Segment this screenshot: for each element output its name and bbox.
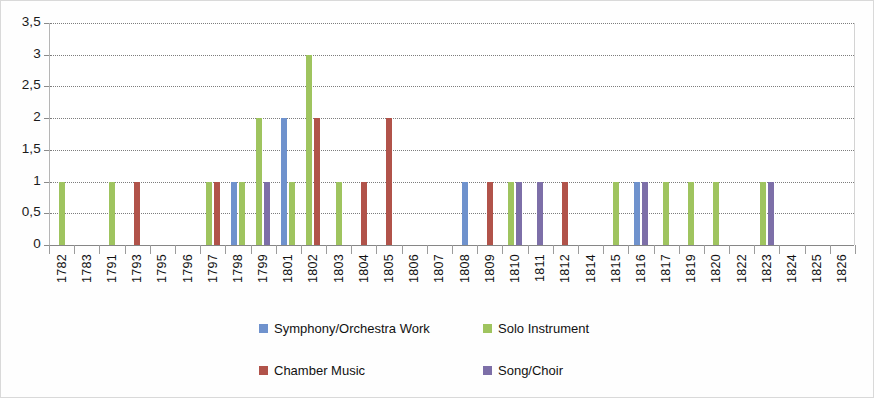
x-axis-tick-mark	[779, 245, 780, 254]
x-axis-tick-mark	[477, 245, 478, 254]
bar	[264, 182, 270, 245]
x-axis-tick-mark	[74, 245, 75, 254]
bar-group	[326, 23, 351, 245]
x-axis-tick-mark	[225, 245, 226, 254]
x-axis-tick-mark	[276, 245, 277, 254]
x-axis-tick-mark	[729, 245, 730, 254]
legend-label: Chamber Music	[274, 363, 365, 379]
y-axis-tick-label: 3,5	[1, 14, 41, 29]
bar	[760, 182, 766, 245]
x-axis-tick-mark	[754, 245, 755, 254]
legend-item[interactable]: Solo Instrument	[483, 321, 589, 337]
y-axis-tick-mark	[44, 86, 49, 87]
x-axis-tick-label: 1796	[181, 254, 195, 283]
x-axis-tick-mark	[427, 245, 428, 254]
x-axis-tick-mark	[603, 245, 604, 254]
x-axis-tick-label: 1803	[332, 254, 346, 283]
bar	[663, 182, 669, 245]
x-axis-tick-label: 1802	[306, 254, 320, 283]
chart-legend: Symphony/Orchestra WorkSolo InstrumentCh…	[1, 311, 874, 381]
y-axis-tick-label: 3	[1, 46, 41, 61]
x-axis-tick-label: 1823	[760, 254, 774, 283]
legend-swatch-icon	[259, 324, 268, 333]
bar-group	[704, 23, 729, 245]
legend-label: Symphony/Orchestra Work	[274, 321, 430, 337]
x-axis-tick-label: 1810	[508, 254, 522, 283]
x-axis-tick-label: 1799	[256, 254, 270, 283]
x-axis-tick-mark	[125, 245, 126, 254]
x-axis-tick-label: 1804	[357, 254, 371, 283]
bar-group	[301, 23, 326, 245]
bar	[59, 182, 65, 245]
bar-group	[628, 23, 653, 245]
x-axis-tick-label: 1811	[533, 254, 547, 282]
bar	[361, 182, 367, 245]
x-axis-tick-mark	[805, 245, 806, 254]
bar-group	[502, 23, 527, 245]
x-axis-tick-label: 1795	[155, 254, 169, 283]
bar-group	[830, 23, 855, 245]
y-axis-tick-label: 1	[1, 173, 41, 188]
x-axis-tick-mark	[452, 245, 453, 254]
bars-layer	[49, 23, 855, 245]
bar-group	[251, 23, 276, 245]
x-axis-tick-label: 1791	[105, 254, 119, 283]
y-axis-tick-label: 1,5	[1, 141, 41, 156]
x-axis-tick-label: 1808	[458, 254, 472, 283]
bar-group	[553, 23, 578, 245]
legend-item[interactable]: Song/Choir	[483, 363, 563, 379]
x-axis-tick-label: 1798	[231, 254, 245, 283]
bar-group	[528, 23, 553, 245]
bar	[537, 182, 543, 245]
y-axis-tick-label: 2,5	[1, 77, 41, 92]
x-axis-tick-mark	[628, 245, 629, 254]
y-axis-tick-label: 2	[1, 109, 41, 124]
bar	[306, 55, 312, 245]
y-axis-tick-mark	[44, 118, 49, 119]
bar-group	[402, 23, 427, 245]
y-axis-tick-mark	[44, 55, 49, 56]
bar	[214, 182, 220, 245]
x-axis-tick-mark	[200, 245, 201, 254]
x-axis-tick-label: 1793	[130, 254, 144, 283]
x-axis-tick-mark	[402, 245, 403, 254]
x-axis-tick-label: 1809	[483, 254, 497, 283]
x-axis-tick-label: 1817	[659, 254, 673, 283]
bar-group	[99, 23, 124, 245]
bar-group	[427, 23, 452, 245]
x-axis-tick-label: 1783	[80, 254, 94, 283]
legend-item[interactable]: Chamber Music	[259, 363, 365, 379]
x-axis-tick-mark	[251, 245, 252, 254]
x-axis-tick-label: 1814	[584, 254, 598, 283]
bar	[134, 182, 140, 245]
legend-swatch-icon	[483, 366, 492, 375]
bar	[386, 118, 392, 245]
bar-group	[150, 23, 175, 245]
bar	[688, 182, 694, 245]
bar-group	[200, 23, 225, 245]
x-axis-tick-label: 1807	[432, 254, 446, 283]
bar	[562, 182, 568, 245]
y-axis-tick-label: 0	[1, 236, 41, 251]
y-axis-tick-label: 0,5	[1, 204, 41, 219]
bar	[634, 182, 640, 245]
x-axis-tick-mark	[578, 245, 579, 254]
bar-group	[74, 23, 99, 245]
bar-group	[376, 23, 401, 245]
x-axis-tick-label: 1805	[382, 254, 396, 283]
legend-swatch-icon	[483, 324, 492, 333]
bar-group	[679, 23, 704, 245]
bar	[109, 182, 115, 245]
y-axis-tick-mark	[44, 150, 49, 151]
bar	[239, 182, 245, 245]
bar-group	[603, 23, 628, 245]
y-axis-tick-mark	[44, 213, 49, 214]
bar	[642, 182, 648, 245]
x-axis-tick-label: 1825	[810, 254, 824, 283]
bar-group	[49, 23, 74, 245]
bar	[516, 182, 522, 245]
x-axis-tick-label: 1815	[609, 254, 623, 283]
legend-item[interactable]: Symphony/Orchestra Work	[259, 321, 430, 337]
x-axis-tick-label: 1816	[634, 254, 648, 283]
chart-frame: 00,511,522,533,5 17821783179117931795179…	[0, 0, 874, 398]
